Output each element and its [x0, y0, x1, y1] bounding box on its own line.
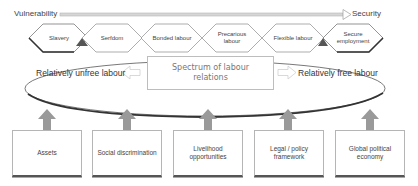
- factor-box-legal-policy-framework: Legal / policy framework: [254, 130, 324, 177]
- security-label: Security: [352, 9, 381, 18]
- labour-relations-diagram: Vulnerability Security Slavery Serfdom B…: [0, 0, 418, 186]
- factor-label: Legal / policy framework: [258, 145, 320, 161]
- hexagon-bonded-labour: Bonded labour: [148, 26, 196, 50]
- hexagon-flexible-labour: Flexible labour: [268, 26, 318, 50]
- hexagon-secure-employment: Secure employment: [331, 26, 375, 50]
- factor-label: Livelihood opportunities: [177, 145, 239, 161]
- spectrum-of-labour-relations-box: Spectrum of labour relations: [147, 56, 274, 90]
- vulnerability-label: Vulnerability: [14, 9, 57, 18]
- spectrum-label: Spectrum of labour relations: [171, 63, 251, 83]
- relatively-unfree-labour-label: Relatively unfree labour: [36, 68, 125, 78]
- vulnerability-security-arrow: [60, 10, 351, 20]
- factor-box-social-discrimination: Social discrimination: [92, 130, 162, 177]
- factor-box-assets: Assets: [12, 130, 82, 177]
- factor-label: Global political economy: [339, 145, 401, 161]
- factor-arrows: [38, 109, 379, 130]
- relatively-free-labour-label: Relatively free labour: [298, 68, 378, 78]
- hexagon-serfdom: Serfdom: [90, 26, 134, 50]
- factor-label: Social discrimination: [97, 149, 156, 157]
- factor-box-livelihood-opportunities: Livelihood opportunities: [173, 130, 243, 177]
- factor-label: Assets: [37, 149, 57, 157]
- hexagon-slavery: Slavery: [35, 26, 83, 50]
- factor-box-global-political-economy: Global political economy: [335, 130, 405, 177]
- hexagon-precarious-labour: Precarious labour: [212, 26, 252, 50]
